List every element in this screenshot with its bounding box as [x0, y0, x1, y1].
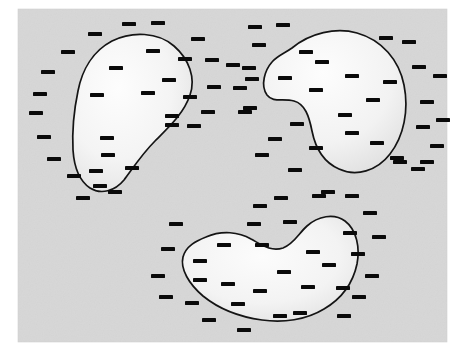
- minus-sign-mark: [411, 167, 425, 171]
- minus-sign-mark: [226, 63, 240, 67]
- minus-sign-mark: [268, 137, 282, 141]
- minus-sign-mark: [430, 144, 444, 148]
- minus-sign-mark: [351, 252, 365, 256]
- minus-sign-mark: [336, 286, 350, 290]
- minus-sign-mark: [101, 153, 115, 157]
- minus-sign-mark: [61, 50, 75, 54]
- minus-sign-mark: [178, 57, 192, 61]
- minus-sign-mark: [277, 270, 291, 274]
- minus-sign-mark: [309, 88, 323, 92]
- minus-sign-mark: [420, 160, 434, 164]
- minus-sign-mark: [393, 160, 407, 164]
- minus-sign-mark: [191, 37, 205, 41]
- minus-sign-mark: [231, 302, 245, 306]
- minus-sign-mark: [205, 58, 219, 62]
- minus-sign-mark: [90, 93, 104, 97]
- minus-sign-mark: [372, 235, 386, 239]
- minus-sign-mark: [255, 153, 269, 157]
- minus-sign-mark: [402, 40, 416, 44]
- minus-sign-mark: [306, 250, 320, 254]
- minus-sign-mark: [253, 204, 267, 208]
- minus-sign-mark: [321, 190, 335, 194]
- minus-sign-mark: [301, 285, 315, 289]
- minus-sign-mark: [390, 156, 404, 160]
- minus-sign-mark: [412, 65, 426, 69]
- minus-sign-mark: [185, 301, 199, 305]
- minus-sign-mark: [165, 123, 179, 127]
- figure-canvas: [0, 0, 458, 359]
- minus-sign-mark: [274, 196, 288, 200]
- minus-sign-mark: [366, 98, 380, 102]
- minus-sign-mark: [125, 166, 139, 170]
- minus-sign-mark: [108, 190, 122, 194]
- minus-sign-mark: [41, 70, 55, 74]
- minus-sign-mark: [109, 66, 123, 70]
- minus-sign-mark: [245, 77, 259, 81]
- minus-sign-mark: [370, 141, 384, 145]
- minus-sign-mark: [436, 118, 450, 122]
- minus-sign-mark: [273, 314, 287, 318]
- minus-sign-mark: [67, 174, 81, 178]
- minus-sign-mark: [242, 66, 256, 70]
- minus-sign-mark: [243, 106, 257, 110]
- minus-sign-mark: [162, 78, 176, 82]
- minus-sign-mark: [207, 85, 221, 89]
- minus-sign-mark: [433, 74, 447, 78]
- minus-sign-mark: [252, 43, 266, 47]
- minus-sign-mark: [33, 92, 47, 96]
- minus-sign-mark: [253, 289, 267, 293]
- minus-sign-mark: [248, 25, 262, 29]
- minus-sign-mark: [312, 194, 326, 198]
- minus-sign-mark: [345, 194, 359, 198]
- minus-sign-mark: [169, 222, 183, 226]
- minus-sign-mark: [337, 314, 351, 318]
- minus-sign-mark: [345, 131, 359, 135]
- minus-sign-mark: [201, 110, 215, 114]
- minus-sign-mark: [183, 95, 197, 99]
- minus-sign-mark: [383, 80, 397, 84]
- minus-sign-mark: [100, 136, 114, 140]
- minus-sign-mark: [47, 157, 61, 161]
- minus-sign-mark: [379, 36, 393, 40]
- minus-sign-mark: [255, 243, 269, 247]
- minus-sign-mark: [202, 318, 216, 322]
- minus-sign-mark: [278, 76, 292, 80]
- minus-sign-mark: [309, 146, 323, 150]
- minus-sign-mark: [93, 184, 107, 188]
- minus-sign-mark: [151, 21, 165, 25]
- minus-sign-mark: [88, 32, 102, 36]
- minus-sign-mark: [151, 274, 165, 278]
- minus-sign-mark: [193, 278, 207, 282]
- minus-sign-mark: [338, 113, 352, 117]
- minus-sign-mark: [352, 295, 366, 299]
- minus-sign-mark: [221, 282, 235, 286]
- minus-sign-mark: [247, 222, 261, 226]
- minus-sign-mark: [233, 86, 247, 90]
- minus-sign-mark: [141, 91, 155, 95]
- minus-sign-mark: [161, 247, 175, 251]
- minus-sign-mark: [37, 135, 51, 139]
- minus-sign-mark: [76, 196, 90, 200]
- minus-sign-mark: [420, 100, 434, 104]
- minus-sign-mark: [122, 22, 136, 26]
- minus-sign-mark: [363, 211, 377, 215]
- minus-sign-mark: [290, 122, 304, 126]
- minus-sign-mark: [315, 60, 329, 64]
- minus-sign-mark: [276, 23, 290, 27]
- minus-sign-mark: [146, 49, 160, 53]
- minus-sign-mark: [237, 328, 251, 332]
- minus-sign-mark: [29, 111, 43, 115]
- minus-sign-mark: [416, 125, 430, 129]
- minus-sign-mark: [193, 259, 207, 263]
- minus-sign-mark: [187, 124, 201, 128]
- figure-container: Three enclosed regions with scattered mi…: [0, 0, 458, 359]
- minus-sign-mark: [89, 169, 103, 173]
- minus-sign-mark: [159, 295, 173, 299]
- minus-sign-mark: [293, 311, 307, 315]
- minus-sign-mark: [322, 263, 336, 267]
- minus-sign-mark: [165, 114, 179, 118]
- minus-sign-mark: [217, 243, 231, 247]
- minus-sign-mark: [345, 74, 359, 78]
- minus-sign-mark: [299, 50, 313, 54]
- minus-sign-mark: [343, 231, 357, 235]
